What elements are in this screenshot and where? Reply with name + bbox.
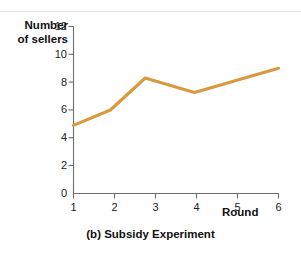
y-axis-title-line2: of sellers (4, 32, 68, 46)
y-tick-marks (69, 27, 74, 166)
data-series-line (74, 68, 279, 125)
x-tick-marks (74, 194, 279, 199)
x-axis-title: Round (222, 206, 258, 218)
x-tick-label-3: 3 (146, 202, 166, 213)
y-tick-label-10: 10 (43, 49, 67, 60)
x-tick-label-4: 4 (187, 202, 207, 213)
y-tick-label-0: 0 (43, 188, 67, 199)
y-tick-label-2: 2 (43, 160, 67, 171)
figure-subsidy-experiment: 12 10 8 6 4 2 0 1 2 3 4 5 6 Number of se… (0, 0, 301, 256)
figure-caption: (b) Subsidy Experiment (0, 228, 301, 240)
x-tick-label-2: 2 (105, 202, 125, 213)
y-tick-label-4: 4 (43, 132, 67, 143)
x-tick-label-1: 1 (64, 202, 84, 213)
y-axis-title: Number of sellers (4, 18, 68, 46)
x-tick-label-6: 6 (269, 202, 289, 213)
y-tick-label-8: 8 (43, 77, 67, 88)
y-axis-title-line1: Number (25, 19, 68, 31)
y-tick-label-6: 6 (43, 104, 67, 115)
